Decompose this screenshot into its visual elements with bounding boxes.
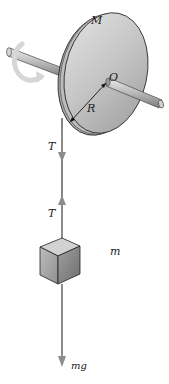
disc (47, 5, 159, 143)
label-radius: R (86, 102, 95, 115)
tension-arrow-up (58, 195, 66, 240)
tension-arrow-down (58, 128, 66, 162)
label-center: O (109, 71, 118, 84)
label-disc-mass: M (90, 14, 103, 27)
label-block-mass: m (110, 245, 120, 258)
label-weight: mg (71, 360, 87, 371)
pulley-diagram: M O R T T m mg (0, 0, 169, 384)
label-tension-bottom: T (48, 207, 57, 220)
block (40, 238, 80, 284)
weight-arrow (58, 284, 66, 367)
label-tension-top: T (48, 140, 57, 153)
